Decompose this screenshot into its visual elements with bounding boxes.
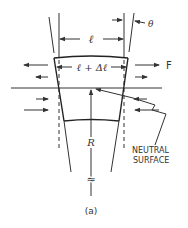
figure-caption: (a) — [85, 206, 98, 216]
force-label: F — [166, 60, 172, 71]
bending-beam-diagram: ℓ ℓ + Δℓ F θ R NEUTRAL SURFACE ≈ (a) — [0, 0, 188, 228]
length-plus-delta-label: ℓ + Δℓ — [77, 62, 107, 73]
length-label: ℓ — [89, 33, 94, 46]
neutral-surface-label-line1: NEUTRAL — [132, 146, 169, 155]
angle-indicator — [112, 20, 145, 23]
neutral-surface-leader — [96, 89, 166, 145]
neutral-surface-label-line2: SURFACE — [133, 156, 169, 165]
angle-label: θ — [148, 19, 154, 29]
radius-label: R — [86, 137, 95, 148]
break-symbol: ≈ — [86, 173, 95, 186]
